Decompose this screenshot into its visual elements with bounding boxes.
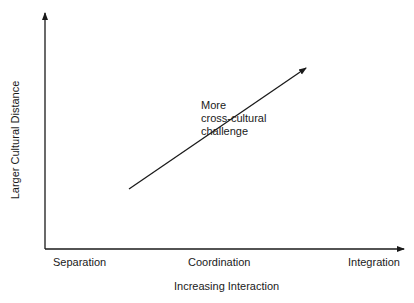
challenge-annotation: More cross-cultural challenge [201,99,266,138]
annotation-line: challenge [201,125,266,138]
annotation-line: More [201,99,266,112]
x-tick-integration: Integration [348,256,400,269]
x-tick-separation: Separation [53,256,106,269]
y-axis-label: Larger Cultural Distance [9,81,21,200]
x-axis-label: Increasing Interaction [174,280,279,293]
annotation-line: cross-cultural [201,112,266,125]
x-tick-coordination: Coordination [188,256,250,269]
